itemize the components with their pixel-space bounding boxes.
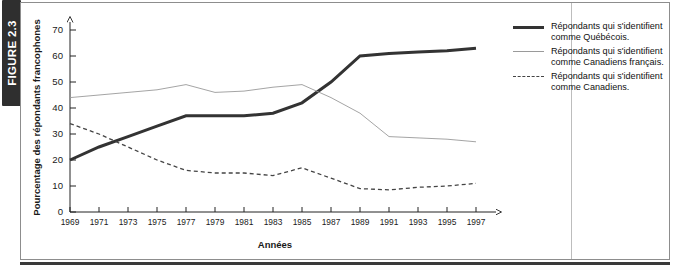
y-axis-tick-label: 50 xyxy=(52,76,63,87)
x-axis-tick-label: 1979 xyxy=(206,217,225,227)
figure-root: FIGURE 2.3 Pourcentage des répondants fr… xyxy=(0,0,673,269)
x-axis-tick-label: 1977 xyxy=(177,217,196,227)
legend-label-canadiens-francais-line2: comme Canadiens français. xyxy=(551,57,664,67)
x-axis-tick-label: 1969 xyxy=(61,217,80,227)
x-axis-tick-label: 1997 xyxy=(467,217,486,227)
y-axis-tick-label: 70 xyxy=(52,24,63,35)
x-axis-tick-label: 1993 xyxy=(409,217,428,227)
x-axis-tick-label: 1987 xyxy=(322,217,341,227)
legend-label-canadiens-francais-line1: Répondants qui s'identifient xyxy=(551,46,662,56)
x-axis-tick-label: 1989 xyxy=(351,217,370,227)
x-axis-tick-label: 1975 xyxy=(148,217,167,227)
legend-swatch-thick-line-icon xyxy=(512,21,545,43)
legend-item-quebecois: Répondants qui s'identifient comme Québé… xyxy=(512,21,670,44)
x-axis-tick-label: 1995 xyxy=(438,217,457,227)
chart-legend: Répondants qui s'identifient comme Québé… xyxy=(512,21,670,95)
x-axis-tick-label: 1973 xyxy=(119,217,138,227)
legend-swatch-dashed-line-icon xyxy=(512,71,545,93)
legend-label-quebecois-line2: comme Québécois. xyxy=(551,32,629,42)
y-axis-tick-label: 10 xyxy=(52,180,63,191)
legend-item-canadiens-francais: Répondants qui s'identifient comme Canad… xyxy=(512,46,670,69)
legend-label-quebecois-line1: Répondants qui s'identifient xyxy=(551,21,662,31)
y-axis-tick-label: 40 xyxy=(52,102,63,113)
legend-label-quebecois: Répondants qui s'identifient comme Québé… xyxy=(551,21,662,44)
legend-swatch-thin-line-icon xyxy=(512,46,545,68)
x-axis-tick-label: 1971 xyxy=(90,217,109,227)
x-axis-tick-label: 1985 xyxy=(293,217,312,227)
x-axis-tick-label: 1991 xyxy=(380,217,399,227)
legend-label-canadiens-line1: Répondants qui s'identifient xyxy=(551,71,662,81)
series-line-quebecois xyxy=(70,48,476,160)
series-line-canadiens xyxy=(70,124,476,190)
y-axis-tick-label: 0 xyxy=(58,206,63,217)
legend-label-canadiens-francais: Répondants qui s'identifient comme Canad… xyxy=(551,46,664,69)
y-axis-tick-label: 60 xyxy=(52,50,63,61)
y-axis-tick-label: 30 xyxy=(52,128,63,139)
legend-label-canadiens-line2: comme Canadiens. xyxy=(551,82,629,92)
legend-label-canadiens: Répondants qui s'identifient comme Canad… xyxy=(551,71,662,94)
x-axis-tick-label: 1983 xyxy=(264,217,283,227)
y-axis-tick-label: 20 xyxy=(52,154,63,165)
x-axis-tick-label: 1981 xyxy=(235,217,254,227)
legend-item-canadiens: Répondants qui s'identifient comme Canad… xyxy=(512,71,670,94)
